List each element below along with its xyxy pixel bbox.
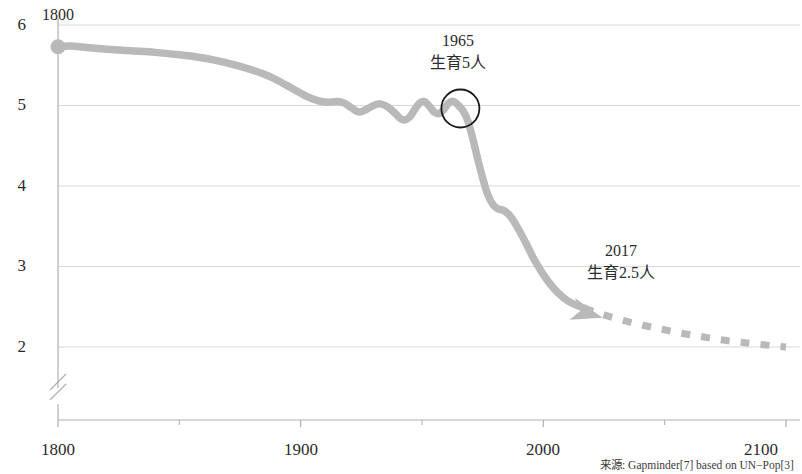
series-line-historical (58, 46, 585, 308)
callout-2017-year: 2017 (546, 240, 696, 262)
y-tick-label-6: 6 (0, 15, 26, 35)
y-tick-label-2: 2 (0, 337, 26, 357)
x-tick-label-1800: 1800 (18, 440, 98, 460)
y-tick-label-3: 3 (0, 256, 26, 276)
callout-1965-year: 1965 (388, 30, 528, 52)
callout-2017: 2017 生育2.5人 (546, 240, 696, 283)
source-note: 来源: Gapminder[7] based on UN−Pop[3] (600, 456, 794, 472)
y-tick-label-4: 4 (0, 176, 26, 196)
x-tick-label-1900: 1900 (261, 440, 341, 460)
fertility-rate-line-chart: 6 5 4 3 2 1800 1900 2000 2100 1800 1965 … (0, 0, 802, 474)
series-line-projection (585, 308, 786, 347)
callout-1965-text: 生育5人 (388, 52, 528, 74)
callout-1965: 1965 生育5人 (388, 30, 528, 73)
series-start-dot (51, 39, 66, 54)
y-tick-label-5: 5 (0, 95, 26, 115)
callout-2017-text: 生育2.5人 (546, 262, 696, 284)
x-tick-label-2000: 2000 (503, 440, 583, 460)
series-start-year-label: 1800 (42, 6, 74, 24)
